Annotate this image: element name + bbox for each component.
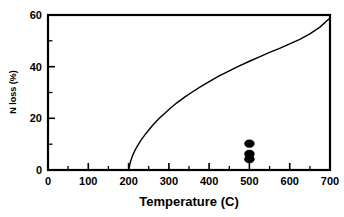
x-tick-label: 700 xyxy=(321,175,339,187)
series-line-model-curve xyxy=(129,18,330,170)
x-tick-label: 400 xyxy=(200,175,218,187)
chart-figure: 0 100 200 300 400 500 600 700 0 20 40 60… xyxy=(0,0,344,217)
x-tick-label: 500 xyxy=(240,175,258,187)
x-axis-title: Temperature (C) xyxy=(139,194,238,209)
y-tick-label: 60 xyxy=(30,9,42,21)
y-axis-tick-labels: 0 20 40 60 xyxy=(30,9,42,176)
x-tick-label: 100 xyxy=(79,175,97,187)
plot-frame xyxy=(48,15,330,170)
x-tick-label: 600 xyxy=(281,175,299,187)
data-point-marker xyxy=(244,139,254,147)
series-scatter-measured-points xyxy=(244,139,254,163)
y-tick-label: 40 xyxy=(30,61,42,73)
x-tick-label: 0 xyxy=(45,175,51,187)
x-tick-label: 200 xyxy=(119,175,137,187)
chart-svg: 0 100 200 300 400 500 600 700 0 20 40 60… xyxy=(0,0,344,217)
y-axis-title: N loss (%) xyxy=(8,70,18,114)
data-point-marker xyxy=(244,155,254,163)
x-axis-tick-labels: 0 100 200 300 400 500 600 700 xyxy=(45,175,339,187)
x-tick-label: 300 xyxy=(160,175,178,187)
y-tick-label: 0 xyxy=(36,164,42,176)
y-tick-label: 20 xyxy=(30,112,42,124)
